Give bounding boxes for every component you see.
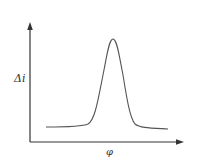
- y-axis: [27, 22, 33, 142]
- x-axis: [30, 139, 184, 145]
- diagram-canvas: Δi φ: [0, 0, 197, 163]
- y-axis-arrow-icon: [27, 22, 33, 30]
- x-axis-label: φ: [106, 146, 113, 157]
- x-axis-arrow-icon: [176, 139, 184, 145]
- y-axis-label: Δi: [13, 72, 25, 85]
- peak-curve: [46, 39, 168, 129]
